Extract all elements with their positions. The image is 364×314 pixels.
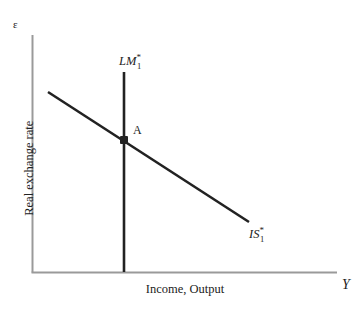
is-curve-label: IS*1 (249, 226, 264, 243)
is-label-subscript: 1 (260, 234, 264, 244)
equilibrium-point-a-marker (120, 136, 128, 144)
is-lm-figure: ε Real exchange rate Income, Output Y LM… (0, 0, 364, 314)
x-axis-symbol: Y (342, 278, 350, 292)
is-label-main: IS (249, 227, 259, 241)
lm-label-main: LM (119, 54, 136, 68)
is-curve (48, 92, 249, 222)
lm-label-subscript: 1 (137, 61, 141, 71)
equilibrium-point-a-label: A (133, 124, 142, 136)
plot-canvas (0, 0, 364, 314)
y-axis-symbol: ε (13, 19, 18, 30)
y-axis-caption: Real exchange rate (23, 98, 36, 238)
lm-curve-label: LM*1 (119, 53, 141, 70)
x-axis-caption: Income, Output (105, 283, 265, 296)
